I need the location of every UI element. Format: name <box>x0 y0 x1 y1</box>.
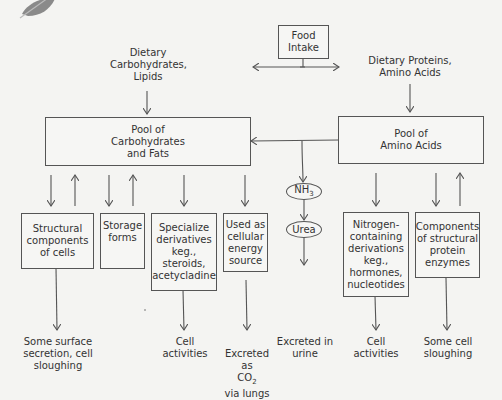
pool-amino-box: Pool of Amino Acids <box>338 116 484 164</box>
dietary-carbs-label: Dietary Carbohydrates, Lipids <box>110 47 186 83</box>
nitrogen-box: Nitrogen- containing derivations keg., h… <box>343 212 409 297</box>
leaf-icon <box>20 0 56 18</box>
components-box: Components of structural protein enzymes <box>415 212 480 278</box>
specialize-box: Specialize derivatives keg., steroids, a… <box>151 213 217 291</box>
urea-label: Urea <box>292 224 316 236</box>
energy-label: Used as cellular energy source <box>226 219 266 267</box>
structural-label: Structural components of cells <box>27 223 89 259</box>
co2-line1: Excreted as <box>225 348 269 371</box>
outcome-surface-secretion: Some surface secretion, cell sloughing <box>20 336 96 372</box>
food-intake-box: Food Intake <box>278 25 329 59</box>
components-label: Components of structural protein enzymes <box>416 221 479 269</box>
co2-line3: via lungs <box>224 388 269 399</box>
dietary-proteins-label: Dietary Proteins, Amino Acids <box>365 55 455 79</box>
structural-box: Structural components of cells <box>21 213 94 269</box>
pool-carbs-label: Pool of Carbohydrates and Fats <box>111 124 185 160</box>
nitrogen-label: Nitrogen- containing derivations keg., h… <box>347 219 405 291</box>
urea-oval: Urea <box>286 221 322 238</box>
energy-box: Used as cellular energy source <box>223 213 268 272</box>
storage-label: Storage forms <box>103 220 142 244</box>
nh3-oval: NH3 <box>286 183 322 200</box>
pool-carbs-box: Pool of Carbohydrates and Fats <box>45 117 251 166</box>
outcome-cell-activities-1: Cell activities <box>160 336 210 360</box>
specialize-label: Specialize derivatives keg., steroids, a… <box>152 222 216 282</box>
outcome-co2: Excreted asCO2via lungs <box>218 336 276 400</box>
nh3-label: NH <box>294 184 309 195</box>
outcome-urine: Excreted in urine <box>275 336 335 360</box>
co2-formula: CO <box>237 372 252 383</box>
pool-amino-label: Pool of Amino Acids <box>380 128 442 152</box>
food-intake-label: Food Intake <box>288 30 319 54</box>
outcome-cell-sloughing: Some cell sloughing <box>418 336 478 360</box>
nh3-subscript: 3 <box>309 190 313 198</box>
co2-subscript: 2 <box>252 378 256 386</box>
outcome-cell-activities-2: Cell activities <box>351 336 401 360</box>
storage-box: Storage forms <box>100 213 145 269</box>
